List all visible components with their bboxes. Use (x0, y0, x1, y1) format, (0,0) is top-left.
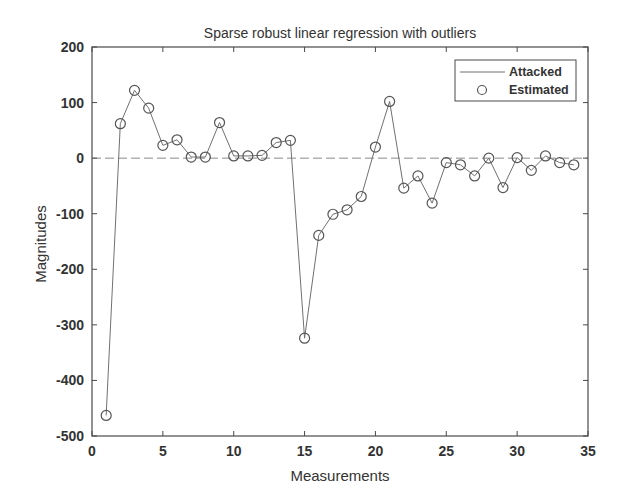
y-tick-label: 100 (61, 95, 85, 111)
x-tick-label: 5 (159, 443, 167, 459)
legend: Attacked Estimated (455, 60, 576, 101)
y-axis-label: Magnitudes (32, 205, 49, 283)
x-tick-label: 15 (297, 443, 313, 459)
x-tick-label: 25 (438, 443, 454, 459)
axes-box (92, 47, 588, 436)
legend-label-attacked: Attacked (509, 65, 562, 79)
plot-area: 05101520253035 2001000-100-200-300-400-5… (56, 39, 596, 459)
x-tick-label: 30 (509, 443, 525, 459)
chart-title: Sparse robust linear regression with out… (204, 25, 476, 41)
y-tick-labels: 2001000-100-200-300-400-500 (56, 39, 84, 444)
y-tick-label: -300 (56, 317, 84, 333)
x-axis-label: Measurements (290, 467, 389, 484)
estimated-series-markers (101, 85, 579, 420)
x-tick-label: 0 (88, 443, 96, 459)
y-tick-label: -400 (56, 372, 84, 388)
legend-label-estimated: Estimated (509, 83, 569, 97)
y-tick-label: -500 (56, 428, 84, 444)
x-tick-labels: 05101520253035 (88, 443, 596, 459)
axis-ticks (92, 47, 588, 436)
y-tick-label: 200 (61, 39, 85, 55)
y-tick-label: 0 (76, 150, 84, 166)
chart-figure: Sparse robust linear regression with out… (0, 0, 625, 502)
attacked-series-line (106, 90, 574, 415)
x-tick-label: 35 (580, 443, 596, 459)
y-tick-label: -200 (56, 261, 84, 277)
x-tick-label: 10 (226, 443, 242, 459)
x-tick-label: 20 (368, 443, 384, 459)
y-tick-label: -100 (56, 206, 84, 222)
